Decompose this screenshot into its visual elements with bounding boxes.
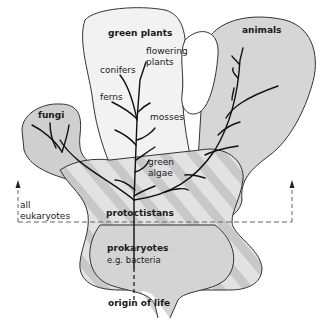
label-ferns: ferns	[100, 92, 123, 102]
label-eukaryotes: eukaryotes	[20, 211, 70, 221]
label-plants: plants	[146, 57, 174, 67]
label-green-plants: green plants	[108, 28, 172, 38]
label-animals: animals	[242, 25, 281, 35]
label-origin-of-life: origin of life	[108, 298, 170, 308]
label-all: all	[20, 200, 31, 210]
label-mosses: mosses	[150, 112, 184, 122]
label-fungi: fungi	[38, 110, 64, 120]
label-flowering: flowering	[146, 46, 188, 56]
label-prokaryotes: prokaryotes	[107, 243, 168, 253]
label-algae: algae	[148, 168, 173, 178]
label-green: green	[148, 157, 174, 167]
label-protoctistans: protoctistans	[106, 208, 174, 218]
label-bacteria-example: e.g. bacteria	[107, 255, 161, 265]
label-conifers: conifers	[100, 65, 136, 75]
